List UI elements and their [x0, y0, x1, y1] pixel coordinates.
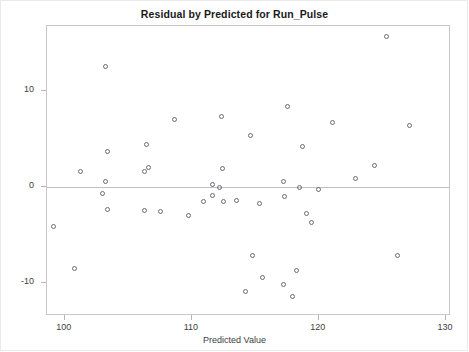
scatter-point — [353, 176, 358, 181]
y-axis-tick — [41, 90, 46, 91]
scatter-point — [144, 142, 149, 147]
scatter-point — [142, 208, 147, 213]
scatter-point — [78, 169, 83, 174]
scatter-point — [407, 123, 412, 128]
scatter-point — [100, 191, 105, 196]
scatter-point — [372, 163, 377, 168]
y-axis-tick-label: -10 — [8, 276, 34, 286]
scatter-point — [103, 64, 108, 69]
scatter-point — [210, 182, 215, 187]
scatter-point — [300, 144, 305, 149]
x-axis-label: Predicted Value — [0, 335, 469, 345]
x-axis-tick-label: 110 — [176, 322, 206, 332]
scatter-point — [304, 211, 309, 216]
x-axis-tick — [64, 315, 65, 320]
scatter-point — [103, 179, 108, 184]
scatter-point — [105, 207, 110, 212]
scatter-point — [142, 169, 147, 174]
x-axis-tick — [191, 315, 192, 320]
scatter-point — [105, 149, 110, 154]
scatter-point — [294, 268, 299, 273]
scatter-point — [281, 179, 286, 184]
scatter-point — [281, 282, 286, 287]
scatter-point — [260, 275, 265, 280]
scatter-point — [243, 289, 248, 294]
x-axis-tick-label: 120 — [303, 322, 333, 332]
zero-reference-line — [47, 187, 449, 188]
scatter-point — [248, 133, 253, 138]
x-axis-tick-label: 130 — [430, 322, 460, 332]
scatter-point — [158, 209, 163, 214]
scatter-point — [250, 253, 255, 258]
scatter-point — [309, 220, 314, 225]
y-axis-tick — [41, 282, 46, 283]
scatter-point — [72, 266, 77, 271]
scatter-point — [221, 199, 226, 204]
y-axis-tick-label: 10 — [8, 84, 34, 94]
y-axis-tick — [41, 186, 46, 187]
scatter-point — [201, 199, 206, 204]
x-axis-tick-label: 100 — [49, 322, 79, 332]
scatter-point — [219, 114, 224, 119]
scatter-point — [217, 185, 222, 190]
scatter-point — [210, 193, 215, 198]
y-axis-tick-label: 0 — [8, 180, 34, 190]
scatter-point — [234, 198, 239, 203]
scatter-point — [146, 165, 151, 170]
page-title: Residual by Predicted for Run_Pulse — [0, 8, 469, 20]
scatter-layer — [47, 26, 449, 314]
scatter-point — [186, 213, 191, 218]
scatter-point — [290, 294, 295, 299]
scatter-point — [316, 187, 321, 192]
scatter-point — [51, 224, 56, 229]
scatter-point — [285, 104, 290, 109]
scatter-point — [220, 166, 225, 171]
scatter-point — [257, 201, 262, 206]
scatter-point — [172, 117, 177, 122]
scatter-point — [282, 194, 287, 199]
plot-area — [46, 25, 450, 315]
x-axis-tick — [318, 315, 319, 320]
x-axis-tick — [445, 315, 446, 320]
chart-canvas: Residual by Predicted for Run_Pulse Resi… — [0, 0, 469, 352]
scatter-point — [395, 253, 400, 258]
scatter-point — [384, 34, 389, 39]
scatter-point — [297, 185, 302, 190]
scatter-point — [330, 120, 335, 125]
